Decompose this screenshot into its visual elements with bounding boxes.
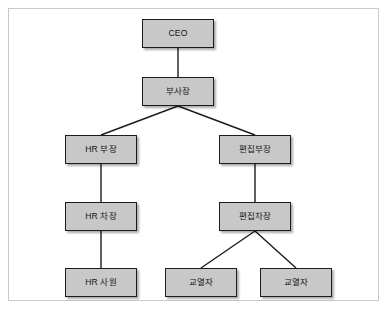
connector-vp-to-hr_bujang — [101, 106, 178, 135]
org-node-label: HR 사원 — [85, 278, 117, 287]
org-node-label: CEO — [168, 29, 187, 38]
org-node-hr_sawon[interactable]: HR 사원 — [65, 268, 137, 297]
connector-vp-to-ed_bujang — [178, 106, 255, 135]
org-node-ed_bujang[interactable]: 편집부장 — [219, 135, 291, 164]
org-node-label: 부사장 — [166, 87, 191, 96]
org-node-vp[interactable]: 부사장 — [142, 77, 214, 106]
org-node-hr_chajang[interactable]: HR 차장 — [65, 202, 137, 231]
org-node-hr_bujang[interactable]: HR 부장 — [65, 135, 137, 164]
org-node-ed_chajang[interactable]: 편집차장 — [219, 202, 291, 231]
org-node-label: HR 차장 — [85, 212, 117, 221]
org-chart-frame: CEO부사장HR 부장편집부장HR 차장편집차장HR 사원교열자교열자 — [8, 8, 379, 301]
org-node-label: 교열자 — [284, 278, 309, 287]
org-chart-canvas: CEO부사장HR 부장편집부장HR 차장편집차장HR 사원교열자교열자 — [9, 9, 378, 300]
org-node-ceo[interactable]: CEO — [142, 19, 214, 48]
connector-ed_chajang-to-proof_1 — [201, 231, 255, 268]
connector-ed_chajang-to-proof_2 — [255, 231, 296, 268]
org-node-label: 편집차장 — [239, 212, 272, 221]
org-node-proof_2[interactable]: 교열자 — [260, 268, 332, 297]
org-node-label: 교열자 — [189, 278, 214, 287]
org-node-label: 편집부장 — [239, 145, 272, 154]
org-node-proof_1[interactable]: 교열자 — [165, 268, 237, 297]
org-node-label: HR 부장 — [85, 145, 117, 154]
